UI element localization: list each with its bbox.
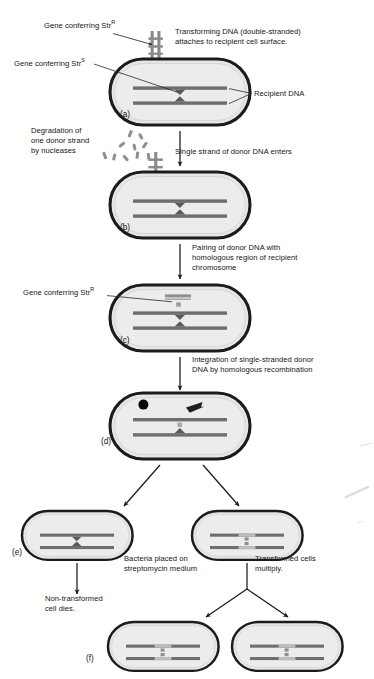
step-text-streptomycin: Bacteria placed on streptomycin medium [124, 554, 197, 574]
str-r-marker-upper [245, 537, 249, 540]
recipient-dna-strand-lower [133, 101, 227, 104]
donor-dna-double-stranded-a [148, 31, 162, 59]
superscript-r: R [111, 19, 115, 25]
integrated-donor-segment-upper [239, 534, 256, 537]
recipient-dna-strand-upper [40, 534, 114, 537]
integrated-donor-segment-lower [155, 657, 172, 660]
str-r-marker-lower [285, 653, 289, 656]
cell-f-right [232, 622, 343, 671]
label-gene-str-r-a: Gene conferring StrR [44, 21, 115, 31]
step-text-degradation: Degradation of one donor strand by nucle… [31, 126, 89, 157]
excised-strand-marker [138, 400, 148, 410]
arrow-d-to-e-left [124, 465, 160, 506]
superscript-s: S [81, 57, 85, 63]
superscript-r: R [90, 286, 94, 292]
integrated-donor-segment-upper [279, 645, 296, 648]
integrated-donor-segment-lower [239, 546, 256, 549]
recipient-dna-strand-lower [133, 214, 227, 217]
arrow-d-to-e-right [203, 465, 239, 506]
integrated-donor-segment-upper [155, 645, 172, 648]
cell-e-left [22, 511, 133, 560]
str-r-marker-upper [161, 648, 165, 651]
arrow-to-f-right [247, 589, 288, 617]
step-text-integration: Integration of single-stranded donor DNA… [192, 355, 314, 375]
label-gene-str-r-c: Gene conferring StrR [23, 288, 94, 298]
step-text-multiply: Transformed cells multiply. [255, 554, 316, 574]
recipient-dna-strand-upper [133, 418, 227, 421]
step-text-pairing: Pairing of donor DNA with homologous reg… [192, 243, 297, 274]
degraded-dna-fragments [102, 130, 150, 162]
leader-gene-str-r-a [113, 34, 152, 45]
figure-canvas: Gene conferring StrR Gene conferring Str… [0, 0, 374, 679]
str-r-marker-lower [245, 542, 249, 545]
stage-letter-c: (c) [120, 336, 130, 345]
recipient-dna-strand-upper [133, 199, 227, 202]
recipient-dna-strand-upper [133, 86, 227, 89]
stage-letter-b: (b) [120, 223, 130, 232]
stage-letter-f: (f) [86, 654, 94, 663]
stage-letter-e: (e) [12, 548, 22, 557]
step-text-single-strand-enters: Single strand of donor DNA enters [175, 147, 292, 157]
recipient-dna-strand-lower [133, 433, 227, 436]
label-gene-str-s-a: Gene conferring StrS [14, 59, 85, 69]
step-text-attach: Transforming DNA (double-stranded) attac… [175, 27, 301, 47]
cell-f-left [108, 622, 219, 671]
diagram-graphics [0, 0, 374, 679]
cell-e-right [192, 511, 303, 560]
stage-letter-d: (d) [101, 437, 111, 446]
stage-letter-a: (a) [120, 110, 130, 119]
cell-d [110, 393, 250, 459]
integrated-donor-segment [177, 423, 182, 427]
recipient-dna-strand-lower [40, 546, 114, 549]
str-r-marker-lower [161, 653, 165, 656]
scan-artifact [346, 443, 372, 523]
step-text-non-transformed: Non-transformed cell dies. [45, 594, 103, 614]
str-r-marker-upper [285, 648, 289, 651]
arrow-to-f-left [206, 589, 247, 617]
recipient-dna-strand-lower [133, 326, 227, 329]
recipient-dna-strand-upper [133, 311, 227, 314]
integrated-donor-segment-lower [279, 657, 296, 660]
label-recipient-dna: Recipient DNA [254, 89, 304, 99]
